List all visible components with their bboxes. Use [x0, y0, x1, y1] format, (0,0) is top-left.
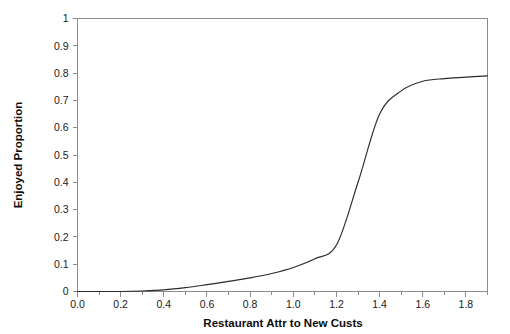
y-tick-label: 0.2 [54, 231, 69, 243]
line-chart: 0.00.20.40.60.81.01.21.41.61.8 00.10.20.… [0, 0, 510, 334]
y-tick-label: 0.9 [54, 40, 69, 52]
x-tick-label: 1.6 [415, 298, 430, 310]
y-tick-label: 0.6 [54, 121, 69, 133]
x-axis-tick-labels: 0.00.20.40.60.81.01.21.41.61.8 [70, 298, 473, 310]
x-tick-label: 1.0 [286, 298, 301, 310]
y-tick-label: 1 [63, 12, 69, 24]
x-tick-label: 1.8 [459, 298, 474, 310]
x-tick-label: 0.0 [70, 298, 85, 310]
chart-figure: 0.00.20.40.60.81.01.21.41.61.8 00.10.20.… [0, 0, 510, 334]
major-tick-marks [73, 19, 466, 297]
y-tick-label: 0.3 [54, 203, 69, 215]
plot-border [78, 19, 488, 292]
x-tick-label: 1.4 [372, 298, 387, 310]
x-tick-label: 0.2 [113, 298, 128, 310]
y-tick-label: 0 [63, 285, 69, 297]
x-tick-label: 0.4 [157, 298, 172, 310]
x-axis-title: Restaurant Attr to New Custs [203, 317, 362, 329]
y-tick-label: 0.5 [54, 149, 69, 161]
y-tick-label: 0.4 [54, 176, 69, 188]
y-tick-label: 0.7 [54, 94, 69, 106]
x-tick-label: 1.2 [329, 298, 344, 310]
y-axis-tick-labels: 00.10.20.30.40.50.60.70.80.91 [54, 12, 69, 297]
y-axis-title: Enjoyed Proportion [12, 102, 24, 209]
y-tick-label: 0.8 [54, 67, 69, 79]
x-tick-label: 0.8 [243, 298, 258, 310]
x-tick-label: 0.6 [200, 298, 215, 310]
plot-frame [78, 19, 488, 292]
y-tick-label: 0.1 [54, 258, 69, 270]
data-series-line [78, 76, 488, 292]
